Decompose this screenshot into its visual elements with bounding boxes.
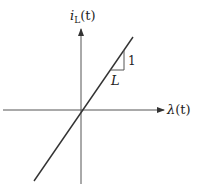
diagram-canvas: iL(t) λ(t) L 1: [0, 0, 200, 193]
slope-run-label: L: [110, 73, 120, 88]
characteristic-line: [34, 37, 133, 181]
slope-rise-label: 1: [128, 54, 136, 68]
y-axis-label: iL(t): [70, 8, 96, 25]
x-axis-label: λ(t): [166, 102, 191, 117]
